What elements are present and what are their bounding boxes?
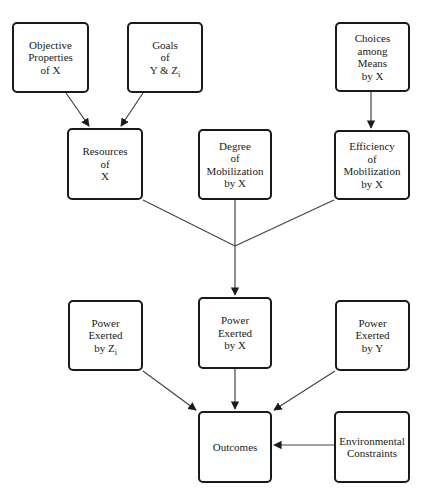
node-label: Environmental (339, 435, 404, 448)
node-label: of (367, 153, 376, 166)
node-efficiency-of-mobilization: Efficiency of Mobilization by X (334, 130, 410, 200)
node-choices-among-means: Choices among Means by X (335, 22, 410, 92)
node-degree-of-mobilization: Degree of Mobilization by X (198, 129, 272, 200)
node-power-exerted-by-z: Power Exerted by Zi (68, 300, 143, 371)
node-label: Means (358, 57, 387, 70)
edge-power-z-to-outcomes (143, 371, 196, 410)
node-label: Mobilization (207, 165, 264, 178)
node-label-main: Y & Z (150, 64, 178, 76)
node-label: among (358, 45, 388, 58)
node-label: Exerted (88, 329, 122, 342)
node-label: of (100, 158, 109, 171)
node-label: by X (224, 177, 246, 190)
node-goals: Goals of Y & Zi (127, 22, 203, 93)
node-label: Properties (28, 51, 73, 64)
node-label-main: by Z (94, 342, 114, 354)
node-label: Choices (355, 32, 390, 45)
node-power-exerted-by-x: Power Exerted by X (198, 297, 272, 369)
node-label: by Y (362, 342, 383, 355)
node-label: Mobilization (344, 165, 401, 178)
edge-power-y-to-outcomes (274, 371, 335, 410)
node-label: Degree (219, 140, 251, 153)
node-label: of (160, 51, 169, 64)
edge-efficiency-to-junction (235, 200, 334, 246)
node-label: Resources (82, 145, 127, 158)
node-label-subscript: i (178, 70, 180, 79)
node-label: Power (221, 314, 249, 327)
node-label: Constraints (347, 447, 397, 460)
edge-goals-to-resources (121, 93, 143, 126)
node-outcomes: Outcomes (198, 411, 272, 483)
node-objective-properties: Objective Properties of X (12, 22, 89, 93)
node-label: Outcomes (213, 441, 258, 454)
node-power-exerted-by-y: Power Exerted by Y (335, 300, 410, 371)
edge-objective-to-resources (66, 93, 89, 126)
node-label: by Zi (94, 342, 117, 355)
node-label: Goals (152, 39, 178, 52)
node-label: by X (224, 339, 246, 352)
node-label-subscript: i (115, 348, 117, 357)
node-resources: Resources of X (67, 128, 143, 200)
node-label: of X (41, 64, 61, 77)
node-label: X (101, 170, 109, 183)
node-label: Power (91, 317, 119, 330)
node-label: Power (358, 317, 386, 330)
node-label: by X (362, 70, 384, 83)
node-environmental-constraints: Environmental Constraints (334, 411, 410, 483)
node-label: of (230, 152, 239, 165)
node-label: Efficiency (349, 140, 395, 153)
edge-resources-to-junction (143, 200, 235, 246)
node-label: by X (361, 178, 383, 191)
node-label: Y & Zi (150, 64, 181, 77)
node-label: Objective (29, 39, 72, 52)
node-label: Exerted (355, 329, 389, 342)
node-label: Exerted (218, 327, 252, 340)
